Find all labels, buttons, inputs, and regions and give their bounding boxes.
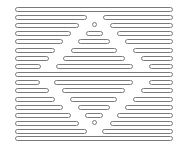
pattern-bar: [15, 31, 71, 36]
pattern-bar: [70, 97, 117, 102]
pattern-dot: [92, 120, 97, 125]
pattern-bar: [62, 88, 125, 93]
pattern-bar: [15, 88, 49, 93]
pattern-bar: [71, 48, 117, 53]
pattern-bar: [141, 88, 173, 93]
pattern-bar: [86, 31, 103, 36]
pattern-bar: [117, 113, 173, 118]
pattern-bar: [78, 39, 110, 44]
pattern-bar: [141, 56, 173, 61]
pattern-bar: [102, 129, 173, 134]
pattern-bar: [149, 64, 173, 69]
pattern-bar: [125, 105, 173, 110]
pattern-bar: [15, 80, 40, 85]
pattern-bar: [15, 129, 87, 134]
pattern-bar: [133, 48, 173, 53]
pattern-bar: [56, 64, 133, 69]
pattern-bar: [133, 97, 173, 102]
pattern-bar: [103, 15, 173, 20]
pattern-bar: [15, 72, 173, 77]
pattern-bar: [15, 136, 173, 141]
diamond-bar-pattern: [0, 0, 184, 147]
pattern-bar: [15, 48, 55, 53]
pattern-bar: [15, 113, 71, 118]
pattern-bar: [15, 121, 79, 126]
pattern-bar: [15, 23, 79, 28]
pattern-bar: [110, 23, 173, 28]
pattern-bar: [110, 121, 173, 126]
pattern-bar: [15, 105, 63, 110]
pattern-bar: [63, 56, 125, 61]
pattern-bar: [15, 97, 55, 102]
pattern-bar: [78, 105, 110, 110]
pattern-bar: [15, 56, 49, 61]
pattern-bar: [125, 39, 173, 44]
pattern-bar: [15, 39, 63, 44]
pattern-bar: [54, 80, 133, 85]
pattern-bar: [15, 7, 173, 12]
pattern-bar: [149, 80, 173, 85]
pattern-bar: [15, 15, 87, 20]
pattern-bar: [15, 64, 41, 69]
pattern-bar: [85, 113, 103, 118]
pattern-bar: [117, 31, 173, 36]
pattern-dot: [92, 22, 97, 27]
